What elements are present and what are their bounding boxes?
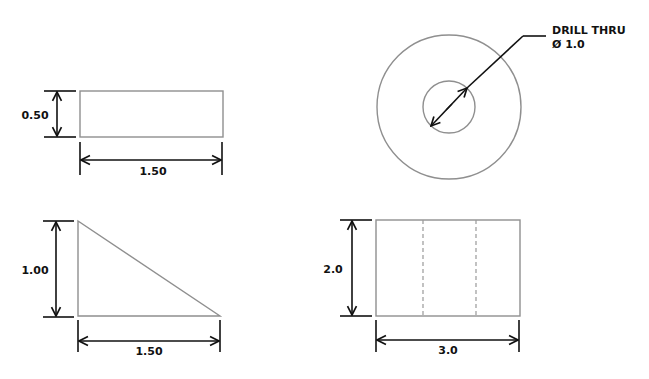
leader-line bbox=[467, 36, 523, 88]
view-top-right-circle: DRILL THRU Ø 1.0 bbox=[377, 24, 626, 179]
rectangle-outline bbox=[80, 91, 223, 137]
view-bottom-right-rectangle: 2.0 3.0 bbox=[323, 220, 520, 357]
center-mark bbox=[446, 104, 452, 110]
height-label: 2.0 bbox=[323, 263, 343, 276]
width-label: 3.0 bbox=[438, 344, 458, 357]
technical-drawing: 0.50 1.50 DRILL THRU Ø 1.0 1.00 1.50 bbox=[0, 0, 649, 379]
height-label: 1.00 bbox=[21, 264, 48, 277]
view-top-left-rectangle: 0.50 1.50 bbox=[21, 91, 223, 178]
width-label: 1.50 bbox=[135, 345, 162, 358]
drill-callout-line1: DRILL THRU bbox=[552, 24, 626, 37]
width-label: 1.50 bbox=[139, 165, 166, 178]
height-label: 0.50 bbox=[21, 109, 48, 122]
rectangle-outline bbox=[376, 220, 520, 316]
triangle-outline bbox=[78, 221, 220, 316]
view-bottom-left-triangle: 1.00 1.50 bbox=[21, 221, 220, 358]
drill-callout-line2: Ø 1.0 bbox=[552, 38, 585, 51]
